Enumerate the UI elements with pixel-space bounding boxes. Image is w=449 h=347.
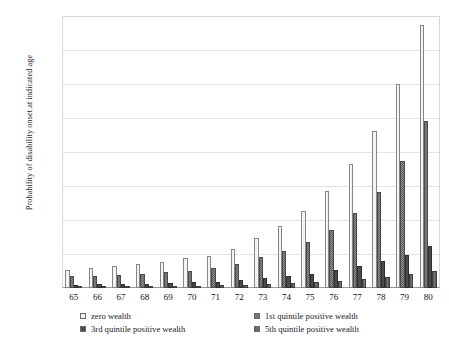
x-axis-tick-label: 75 — [298, 289, 322, 305]
bar-group-79 — [393, 16, 417, 288]
bar — [243, 285, 247, 288]
bar-group-68 — [133, 16, 157, 288]
bar — [149, 286, 153, 288]
x-axis-tick-label: 69 — [157, 289, 181, 305]
bar — [196, 286, 200, 288]
legend-label: 5th quintile positive wealth — [265, 324, 359, 334]
x-axis-tick-label: 66 — [86, 289, 110, 305]
bar — [78, 286, 82, 288]
x-axis-tick-label: 67 — [109, 289, 133, 305]
x-axis-tick-label: 65 — [62, 289, 86, 305]
bar-group-75 — [298, 16, 322, 288]
plot-area — [62, 16, 440, 288]
bar-group-71 — [204, 16, 228, 288]
legend-swatch-icon — [254, 326, 260, 332]
legend-label: 1st quintile positive wealth — [265, 311, 358, 321]
bar-group-66 — [86, 16, 110, 288]
bar — [291, 283, 295, 288]
x-axis-tick-label: 73 — [251, 289, 275, 305]
bar — [220, 285, 224, 288]
bar-groups — [62, 16, 440, 288]
bar-group-73 — [251, 16, 275, 288]
x-axis-tick-label: 79 — [393, 289, 417, 305]
x-axis-tick-label: 68 — [133, 289, 157, 305]
bar — [314, 282, 318, 288]
bar-chart: Probability of disability onset at indic… — [0, 0, 449, 347]
bar — [173, 286, 177, 288]
legend-swatch-icon — [80, 326, 86, 332]
chart-legend: zero wealth1st quintile positive wealth3… — [80, 309, 410, 335]
x-axis-tick-labels: 65666768697071727374757677787980 — [62, 289, 440, 305]
bar-group-67 — [109, 16, 133, 288]
legend-item-s2[interactable]: 3rd quintile positive wealth — [80, 322, 236, 335]
bar — [362, 279, 366, 288]
bar-group-80 — [416, 16, 440, 288]
legend-swatch-icon — [80, 313, 86, 319]
x-axis-tick-label: 74 — [275, 289, 299, 305]
legend-label: 3rd quintile positive wealth — [91, 324, 185, 334]
bar-group-65 — [62, 16, 86, 288]
x-axis-tick-label: 71 — [204, 289, 228, 305]
bar — [432, 271, 436, 288]
bar-group-77 — [346, 16, 370, 288]
bar-group-69 — [157, 16, 181, 288]
bar — [385, 277, 389, 288]
bar-group-72 — [227, 16, 251, 288]
bar-group-76 — [322, 16, 346, 288]
x-axis-tick-label: 80 — [416, 289, 440, 305]
legend-item-s3[interactable]: 5th quintile positive wealth — [254, 322, 410, 335]
x-axis-tick-label: 70 — [180, 289, 204, 305]
bar-group-74 — [275, 16, 299, 288]
y-axis-title: Probability of disability onset at indic… — [25, 8, 34, 258]
legend-item-s1[interactable]: 1st quintile positive wealth — [254, 309, 410, 322]
bar — [409, 274, 413, 288]
x-axis-tick-label: 77 — [346, 289, 370, 305]
bar-group-70 — [180, 16, 204, 288]
x-axis-tick-label: 78 — [369, 289, 393, 305]
legend-swatch-icon — [254, 313, 260, 319]
bar — [267, 284, 271, 288]
bar — [338, 281, 342, 288]
bar — [102, 286, 106, 288]
x-axis-tick-label: 76 — [322, 289, 346, 305]
legend-item-s0[interactable]: zero wealth — [80, 309, 236, 322]
legend-label: zero wealth — [91, 311, 131, 321]
bar-group-78 — [369, 16, 393, 288]
bar — [125, 286, 129, 288]
x-axis-tick-label: 72 — [227, 289, 251, 305]
